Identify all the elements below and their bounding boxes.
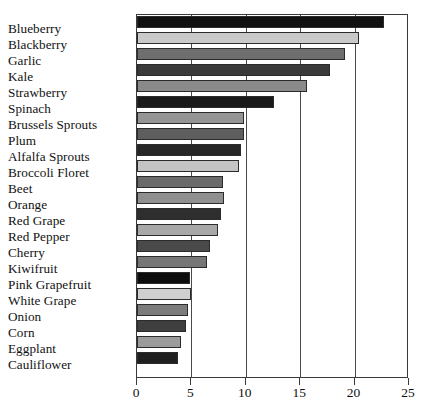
category-label: Blueberry [0, 21, 133, 37]
bar [137, 96, 274, 108]
category-label: Broccoli Floret [0, 165, 133, 181]
bar [137, 32, 359, 44]
bar [137, 176, 223, 188]
bar-row [137, 63, 407, 79]
bar-row [137, 351, 407, 367]
bar-row [137, 111, 407, 127]
category-label: Kale [0, 69, 133, 85]
plot-area [136, 14, 408, 378]
bar [137, 160, 239, 172]
bar [137, 16, 384, 28]
category-label: Red Pepper [0, 229, 133, 245]
bar [137, 304, 188, 316]
x-tick-label: 5 [187, 385, 194, 401]
category-label: Plum [0, 133, 133, 149]
bar [137, 80, 307, 92]
bar-row [137, 319, 407, 335]
category-label: Cherry [0, 245, 133, 261]
bar [137, 192, 224, 204]
category-label: Corn [0, 325, 133, 341]
category-label: Pink Grapefruit [0, 277, 133, 293]
x-tick-mark [245, 378, 246, 385]
category-label: Onion [0, 309, 133, 325]
category-label: Cauliflower [0, 357, 133, 373]
bar-row [137, 15, 407, 31]
bar [137, 224, 218, 236]
bar [137, 48, 345, 60]
category-label: Red Grape [0, 213, 133, 229]
bar [137, 352, 178, 364]
category-label: Orange [0, 197, 133, 213]
bar-row [137, 127, 407, 143]
x-tick-mark [136, 378, 137, 385]
category-label: Strawberry [0, 85, 133, 101]
category-label: Beet [0, 181, 133, 197]
category-label: Blackberry [0, 37, 133, 53]
bar [137, 64, 330, 76]
bar [137, 320, 186, 332]
bar [137, 208, 221, 220]
bar-row [137, 79, 407, 95]
bar [137, 112, 244, 124]
bar-row [137, 175, 407, 191]
bar [137, 272, 190, 284]
bar-row [137, 303, 407, 319]
bar-row [137, 239, 407, 255]
category-label: Eggplant [0, 341, 133, 357]
bar [137, 144, 241, 156]
bars-layer [137, 15, 407, 377]
x-tick-label: 10 [238, 385, 252, 401]
bar-row [137, 31, 407, 47]
category-label: Spinach [0, 101, 133, 117]
category-label: Kiwifruit [0, 261, 133, 277]
bar-row [137, 191, 407, 207]
bar [137, 288, 191, 300]
category-label: Brussels Sprouts [0, 117, 133, 133]
x-tick-mark [190, 378, 191, 385]
bar-row [137, 207, 407, 223]
x-tick-mark [299, 378, 300, 385]
x-tick-label: 20 [347, 385, 361, 401]
category-label: White Grape [0, 293, 133, 309]
bar-row [137, 143, 407, 159]
x-tick-label: 25 [401, 385, 415, 401]
bar-row [137, 287, 407, 303]
bar-row [137, 335, 407, 351]
bar [137, 256, 207, 268]
x-tick-mark [408, 378, 409, 385]
x-axis-tick-labels: 0510152025 [0, 385, 425, 407]
bar-row [137, 47, 407, 63]
bar [137, 240, 210, 252]
x-tick-label: 0 [133, 385, 140, 401]
category-labels-axis: BlueberryBlackberryGarlicKaleStrawberryS… [0, 21, 133, 373]
x-axis-tick-marks [136, 378, 408, 385]
bar-chart: BlueberryBlackberryGarlicKaleStrawberryS… [0, 0, 425, 411]
category-label: Garlic [0, 53, 133, 69]
category-label: Alfalfa Sprouts [0, 149, 133, 165]
bar [137, 336, 181, 348]
bar-row [137, 255, 407, 271]
bar-row [137, 159, 407, 175]
x-tick-mark [354, 378, 355, 385]
bar-row [137, 271, 407, 287]
bar-row [137, 223, 407, 239]
bar [137, 128, 244, 140]
x-tick-label: 15 [292, 385, 306, 401]
bar-row [137, 95, 407, 111]
